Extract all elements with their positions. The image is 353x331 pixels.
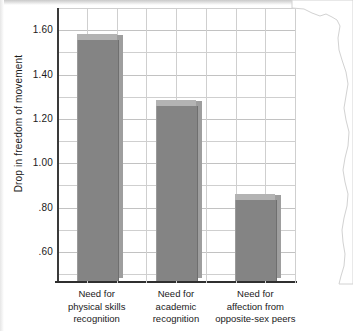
gridline-vertical	[295, 8, 296, 283]
y-axis-line	[57, 8, 59, 283]
x-axis-category-label-line: opposite-sex peers	[206, 313, 305, 326]
bar-front-face	[235, 200, 277, 282]
x-axis-category-label-line: Need for	[206, 288, 305, 301]
gridline-vertical	[206, 8, 207, 283]
bar-front-face	[77, 40, 119, 281]
bar	[156, 101, 196, 281]
y-axis-tick-label: 1.20	[9, 113, 53, 124]
y-axis-tick-label: 1.40	[9, 69, 53, 80]
bar-top-face	[156, 100, 196, 106]
bar-top-face	[77, 34, 117, 40]
y-axis-tick-label: .60	[9, 246, 53, 257]
y-axis-tick-label: 1.60	[9, 24, 53, 35]
plot-area	[57, 8, 295, 283]
bar	[77, 35, 117, 281]
bar-top-face	[235, 194, 275, 200]
gridline-vertical	[146, 8, 147, 283]
x-axis-category-labels: Need forphysical skillsrecognitionNeed f…	[57, 288, 295, 330]
gridline-horizontal-minor	[59, 8, 295, 9]
x-axis-category-label: Need foraffection fromopposite-sex peers	[206, 288, 305, 326]
y-axis-tick-labels: 1.601.401.201.00.80.60	[5, 8, 53, 283]
bar-chart: Drop in freedom of movement 1.601.401.20…	[0, 0, 353, 331]
bar	[235, 195, 275, 282]
x-axis-category-label-line: affection from	[206, 301, 305, 314]
scan-edge-top	[0, 0, 353, 5]
gridline-horizontal-major	[59, 30, 295, 31]
y-axis-tick-label: 1.00	[9, 157, 53, 168]
y-axis-tick-label: .80	[9, 202, 53, 213]
scan-edge-left	[0, 0, 4, 331]
bar-front-face	[156, 106, 198, 281]
